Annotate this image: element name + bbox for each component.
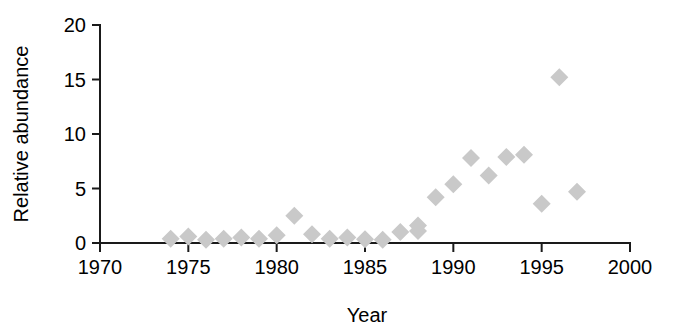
data-point [285, 207, 303, 225]
x-tick-label-2000: 2000 [608, 256, 653, 278]
x-tick-labels: 1970197519801985199019952000 [78, 256, 653, 278]
data-point [268, 226, 286, 244]
data-point [162, 230, 180, 248]
x-tick-label-1985: 1985 [343, 256, 388, 278]
data-point [533, 195, 551, 213]
data-point [197, 231, 215, 249]
data-point [215, 230, 233, 248]
y-axis [92, 25, 100, 243]
y-tick-label-5: 5 [75, 178, 86, 200]
y-tick-label-10: 10 [64, 123, 86, 145]
data-point [356, 230, 374, 248]
y-axis-title: Relative abundance [10, 46, 32, 223]
data-point [480, 166, 498, 184]
data-point-markers [162, 68, 586, 248]
data-point [321, 230, 339, 248]
x-tick-label-1970: 1970 [78, 256, 123, 278]
x-axis-title: Year [347, 304, 388, 326]
y-tick-label-20: 20 [64, 14, 86, 36]
data-point [391, 223, 409, 241]
data-point [568, 183, 586, 201]
data-point [444, 175, 462, 193]
x-tick-label-1980: 1980 [254, 256, 299, 278]
data-point [303, 225, 321, 243]
x-tick-label-1975: 1975 [166, 256, 211, 278]
data-point [462, 149, 480, 167]
y-tick-label-0: 0 [75, 232, 86, 254]
chart-canvas: 05101520 1970197519801985199019952000 Re… [0, 0, 674, 336]
x-tick-label-1995: 1995 [519, 256, 564, 278]
scatter-chart-figure: 05101520 1970197519801985199019952000 Re… [0, 0, 674, 336]
data-point [515, 146, 533, 164]
data-point [250, 230, 268, 248]
y-tick-labels: 05101520 [64, 14, 86, 254]
data-point [427, 188, 445, 206]
data-point [550, 68, 568, 86]
x-tick-label-1990: 1990 [431, 256, 476, 278]
y-tick-label-15: 15 [64, 69, 86, 91]
data-point [497, 148, 515, 166]
data-point [374, 231, 392, 249]
